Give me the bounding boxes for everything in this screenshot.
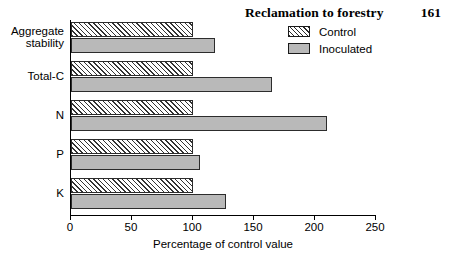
- bar-group: [71, 98, 376, 137]
- bar-group: [71, 176, 376, 215]
- bar-control: [71, 100, 193, 115]
- bar-groups: [71, 20, 376, 215]
- bar-group: [71, 137, 376, 176]
- x-axis-tick-mark: [131, 215, 132, 220]
- x-axis-tick-label: 250: [355, 221, 395, 233]
- bar-inoculated: [71, 77, 272, 92]
- x-axis-tick-label: 0: [50, 221, 90, 233]
- x-axis-tick-mark: [192, 215, 193, 220]
- bar-control: [71, 139, 193, 154]
- y-axis-label: P: [0, 148, 64, 161]
- x-axis-tick-mark: [70, 215, 71, 220]
- y-axis-category-labels: Aggregate stabilityTotal-CNPK: [0, 20, 64, 215]
- bar-group: [71, 20, 376, 59]
- bar-inoculated: [71, 116, 327, 131]
- bar-chart: Aggregate stabilityTotal-CNPK Percentage…: [0, 0, 450, 262]
- bar-inoculated: [71, 38, 215, 53]
- bar-inoculated: [71, 155, 200, 170]
- x-axis-tick-label: 200: [294, 221, 334, 233]
- x-axis-title: Percentage of control value: [70, 238, 376, 250]
- bar-inoculated: [71, 194, 226, 209]
- y-axis-label: Total-C: [0, 70, 64, 83]
- x-axis-tick-mark: [375, 215, 376, 220]
- y-axis-label: K: [0, 187, 64, 200]
- bar-control: [71, 22, 193, 37]
- x-axis-line: [70, 215, 376, 216]
- x-axis-tick-label: 150: [233, 221, 273, 233]
- x-axis-tick-mark: [253, 215, 254, 220]
- x-axis-tick-label: 50: [111, 221, 151, 233]
- bar-control: [71, 178, 193, 193]
- y-axis-label: N: [0, 109, 64, 122]
- x-axis-tick-mark: [314, 215, 315, 220]
- x-axis-tick-label: 100: [172, 221, 212, 233]
- y-axis-label: Aggregate stability: [0, 25, 64, 50]
- bar-group: [71, 59, 376, 98]
- bar-control: [71, 61, 193, 76]
